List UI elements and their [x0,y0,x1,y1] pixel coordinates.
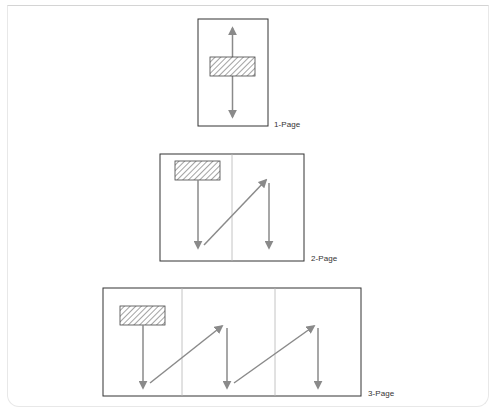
content-block [120,306,165,325]
two-page-label: 2-Page [311,254,337,263]
content-block [210,57,255,76]
one-page-label: 1-Page [274,120,300,129]
content-block [175,161,220,180]
page-flow-diagram [0,0,496,414]
three-page-label: 3-Page [368,389,394,398]
one-page-panel [198,19,268,126]
two-page-panel [160,154,304,261]
three-page-panel [103,288,361,396]
